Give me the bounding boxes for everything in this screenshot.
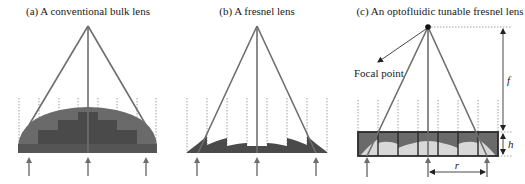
focal-point-dot bbox=[425, 24, 431, 30]
panel-a-title: (a) A conventional bulk lens bbox=[26, 5, 150, 18]
radius-label: r bbox=[455, 159, 460, 171]
ray-right bbox=[257, 26, 316, 153]
focal-point-label: Focal point bbox=[354, 67, 404, 79]
panel-c-optofluidic-lens: (c) An optofluidic tunable fresnel lens bbox=[354, 5, 524, 177]
panel-b-title: (b) A fresnel lens bbox=[219, 5, 294, 18]
panel-a-conventional-lens: (a) A conventional bulk lens bbox=[18, 5, 157, 176]
ray-left bbox=[198, 26, 257, 153]
panel-b-fresnel-lens: (b) A fresnel lens bbox=[187, 5, 327, 176]
lens-comparison-diagram: (a) A conventional bulk lens (b) A fresn… bbox=[0, 0, 525, 184]
focal-length-label: f bbox=[507, 74, 512, 86]
height-label: h bbox=[508, 138, 514, 150]
panel-c-title: (c) An optofluidic tunable fresnel lens bbox=[356, 5, 523, 18]
